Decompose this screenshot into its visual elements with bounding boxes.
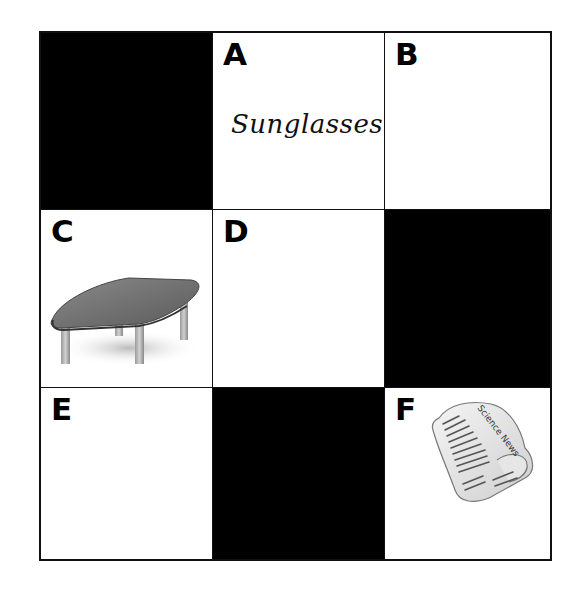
cell-a: A Sunglasses	[213, 33, 384, 209]
cell-d: D	[213, 210, 384, 387]
cell-b: B	[385, 33, 550, 209]
cell-label-f: F	[395, 394, 416, 425]
memory-grid: A Sunglasses B C	[39, 31, 552, 561]
table-icon	[49, 272, 201, 368]
cell-label-e: E	[51, 394, 72, 425]
cell-e: E	[41, 388, 212, 559]
black-cell-r2c3	[385, 210, 550, 387]
cell-label-b: B	[395, 39, 419, 70]
newspaper-icon: Science News	[429, 394, 539, 506]
cell-label-c: C	[51, 216, 74, 247]
black-cell-r1c1	[41, 33, 212, 209]
cell-label-a: A	[223, 39, 247, 70]
black-cell-r3c2	[213, 388, 384, 559]
cell-f: F	[385, 388, 550, 559]
cell-c: C	[41, 210, 212, 387]
sunglasses-text: Sunglasses	[231, 109, 383, 139]
cell-label-d: D	[223, 216, 249, 247]
